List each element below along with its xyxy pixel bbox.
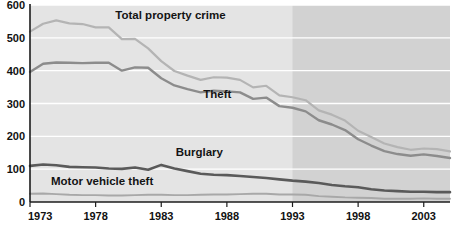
y-axis-tick-label: 100 [7, 163, 25, 175]
y-axis-tick-label: 600 [7, 0, 25, 11]
series-label: Motor vehicle theft [51, 175, 153, 187]
x-axis-tick-labels: 1973197819831988199319982003 [28, 210, 436, 222]
series-label: Total property crime [115, 9, 225, 21]
x-axis-tick-label: 1983 [149, 210, 173, 222]
series-label: Burglary [176, 146, 224, 158]
y-axis-tick-label: 500 [7, 32, 25, 44]
y-axis-tick-label: 0 [19, 196, 25, 208]
x-axis-tick-label: 2003 [412, 210, 436, 222]
y-axis-tick-label: 300 [7, 98, 25, 110]
property-crime-rate-chart: 0100200300400500600 19731978198319881993… [0, 0, 452, 228]
y-axis-tick-label: 400 [7, 65, 25, 77]
y-axis-tick-labels: 0100200300400500600 [7, 0, 25, 208]
x-axis-tick-label: 1993 [280, 210, 304, 222]
x-axis-tick-label: 1973 [28, 210, 52, 222]
series-label: Theft [203, 88, 231, 100]
chart-canvas: 0100200300400500600 19731978198319881993… [0, 0, 452, 228]
y-axis-tick-label: 200 [7, 130, 25, 142]
x-axis-tick-label: 1988 [215, 210, 239, 222]
x-axis-tick-label: 1998 [346, 210, 370, 222]
x-axis-tick-label: 1978 [83, 210, 107, 222]
